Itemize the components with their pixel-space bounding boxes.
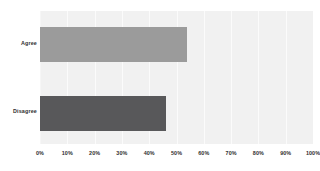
x-tick-label: 90%	[280, 150, 291, 157]
gridline	[231, 11, 232, 144]
x-tick-label: 100%	[306, 150, 320, 157]
x-tick-label: 30%	[116, 150, 127, 157]
x-tick-label: 50%	[171, 150, 182, 157]
x-tick-label: 10%	[62, 150, 73, 157]
bar-agree	[40, 27, 187, 62]
bar-disagree	[40, 96, 166, 131]
x-tick-label: 60%	[198, 150, 209, 157]
category-label-disagree: Disagree	[0, 108, 37, 115]
category-label-agree: Agree	[0, 40, 37, 47]
x-tick-label: 40%	[144, 150, 155, 157]
x-tick-label: 80%	[253, 150, 264, 157]
gridline	[258, 11, 259, 144]
x-tick-label: 20%	[89, 150, 100, 157]
plot-area	[40, 11, 313, 144]
x-tick-label: 70%	[226, 150, 237, 157]
x-tick-label: 0%	[36, 150, 44, 157]
bar-chart: Agree Disagree 0%10%20%30%40%50%60%70%80…	[0, 0, 320, 171]
x-axis-tick-labels: 0%10%20%30%40%50%60%70%80%90%100%	[40, 150, 313, 160]
gridline	[286, 11, 287, 144]
gridline	[204, 11, 205, 144]
